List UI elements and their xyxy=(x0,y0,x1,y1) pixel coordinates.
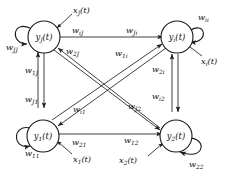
input-arrow-x2 xyxy=(148,143,163,156)
node-yi-label: yi(t) xyxy=(168,32,186,43)
label-w1i: w1i xyxy=(115,48,128,59)
diagram-canvas: yJ(t) yi(t) y1(t) y2(t) wJJ wii w11 w22 … xyxy=(0,0,226,174)
label-wJ1: wJ1 xyxy=(25,94,38,106)
node-y1-label: y1(t) xyxy=(33,131,52,142)
label-w22: w22 xyxy=(189,159,204,170)
recurrent-network-diagram: yJ(t) yi(t) y1(t) y2(t) wJJ wii w11 w22 … xyxy=(0,0,226,174)
label-wi2: wi2 xyxy=(152,91,165,102)
label-wiJ: wiJ xyxy=(72,25,84,37)
node-yJ[interactable]: yJ(t) xyxy=(28,21,60,53)
label-w12: w12 xyxy=(124,135,139,146)
label-wi1: wi1 xyxy=(73,104,86,115)
label-wJ2: wJ2 xyxy=(128,101,141,113)
edge-i1-line xyxy=(58,48,166,126)
node-y2[interactable]: y2(t) xyxy=(160,120,192,152)
label-wii: wii xyxy=(198,12,209,23)
node-y2-label: y2(t) xyxy=(166,131,185,142)
label-wJi: wJi xyxy=(126,25,137,37)
edge-diagonal-J2 xyxy=(54,50,160,130)
input-arrow-xJ xyxy=(57,14,72,28)
label-wJJ: wJJ xyxy=(6,42,18,54)
input-arrow-x1 xyxy=(57,141,72,154)
node-yi[interactable]: yi(t) xyxy=(161,21,193,53)
edge-right-vertical xyxy=(172,54,178,112)
edge-2J-line xyxy=(58,48,160,128)
label-x1: x1(t) xyxy=(73,154,91,165)
label-w2i: w2i xyxy=(152,64,165,75)
edge-diagonal-i1 xyxy=(58,48,166,126)
label-x2: x2(t) xyxy=(119,155,137,166)
edge-left-vertical xyxy=(38,52,44,108)
label-xJ: xJ(t) xyxy=(73,5,90,17)
label-w21: w21 xyxy=(72,137,87,148)
label-w1J: w1J xyxy=(25,65,39,77)
edge-J2-line xyxy=(54,50,160,130)
label-xi: xi(t) xyxy=(201,56,217,67)
edge-diagonal-2J xyxy=(58,48,160,128)
